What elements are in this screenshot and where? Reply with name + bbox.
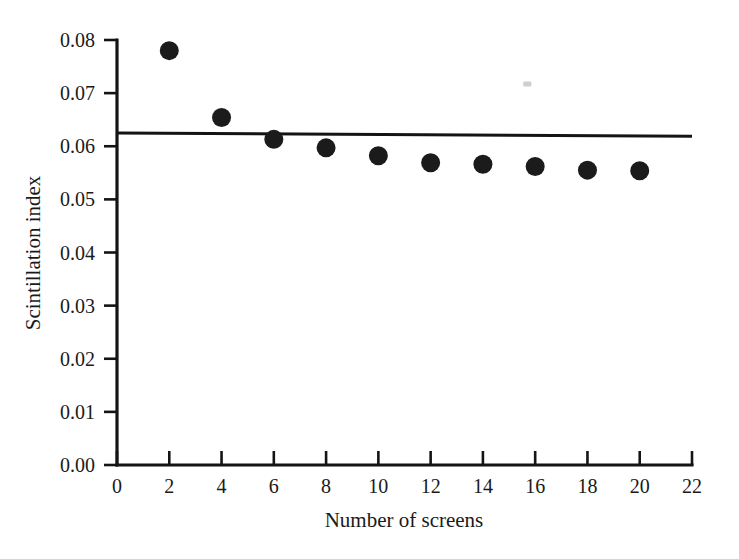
y-tick-label: 0.04 xyxy=(60,242,95,264)
x-tick-group: 0246810121416182022 xyxy=(112,451,702,497)
data-point xyxy=(160,41,179,60)
y-tick-label: 0.03 xyxy=(60,295,95,317)
y-tick-label: 0.08 xyxy=(60,29,95,51)
x-tick-label: 16 xyxy=(525,475,545,497)
x-tick-label: 20 xyxy=(630,475,650,497)
data-point xyxy=(421,153,440,172)
data-point xyxy=(526,157,545,176)
x-tick-label: 0 xyxy=(112,475,122,497)
y-axis-title: Scintillation index xyxy=(21,175,45,330)
x-tick-label: 22 xyxy=(682,475,702,497)
data-point xyxy=(473,155,492,174)
annotation-group xyxy=(523,82,531,87)
data-point xyxy=(630,161,649,180)
x-tick-label: 10 xyxy=(368,475,388,497)
x-tick-label: 4 xyxy=(217,475,227,497)
figure-container: 0.000.010.020.030.040.050.060.070.08 024… xyxy=(0,0,739,559)
x-tick-label: 2 xyxy=(164,475,174,497)
data-point xyxy=(212,108,231,127)
x-tick-label: 14 xyxy=(473,475,493,497)
data-point xyxy=(264,130,283,149)
data-point-group xyxy=(160,41,649,180)
y-tick-label: 0.06 xyxy=(60,135,95,157)
x-tick-label: 8 xyxy=(321,475,331,497)
x-axis-title: Number of screens xyxy=(325,508,484,532)
y-tick-label: 0.02 xyxy=(60,348,95,370)
scatter-chart: 0.000.010.020.030.040.050.060.070.08 024… xyxy=(0,0,739,559)
x-tick-label: 6 xyxy=(269,475,279,497)
x-tick-label: 12 xyxy=(421,475,441,497)
y-tick-group: 0.000.010.020.030.040.050.060.070.08 xyxy=(60,29,117,476)
reference-line-group xyxy=(117,133,692,136)
y-tick-label: 0.07 xyxy=(60,82,95,104)
data-point xyxy=(369,146,388,165)
y-tick-label: 0.05 xyxy=(60,188,95,210)
axis-group xyxy=(117,40,692,465)
reference-line xyxy=(117,133,692,136)
x-tick-label: 18 xyxy=(577,475,597,497)
data-point xyxy=(317,138,336,157)
y-tick-label: 0.00 xyxy=(60,454,95,476)
scan-speck-mark xyxy=(523,82,531,87)
data-point xyxy=(578,161,597,180)
y-tick-label: 0.01 xyxy=(60,401,95,423)
